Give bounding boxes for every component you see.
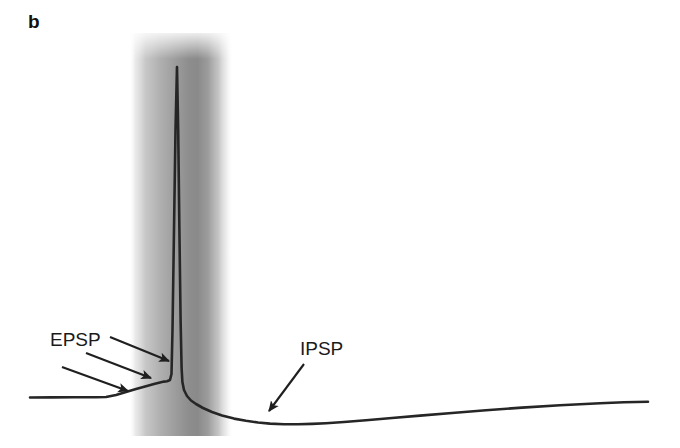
ipsp-arrow: [269, 364, 304, 411]
ipsp-label: IPSP: [300, 339, 343, 358]
panel-label: b: [28, 12, 40, 31]
ipsp-arrow-group: [269, 364, 304, 411]
epsp-label: EPSP: [50, 330, 101, 349]
electrophysiology-trace-plot: [0, 0, 680, 448]
figure-panel-b: b EPSP IPSP: [0, 0, 680, 448]
epsp-arrow-lower: [62, 367, 128, 391]
membrane-potential-trace: [30, 67, 648, 424]
